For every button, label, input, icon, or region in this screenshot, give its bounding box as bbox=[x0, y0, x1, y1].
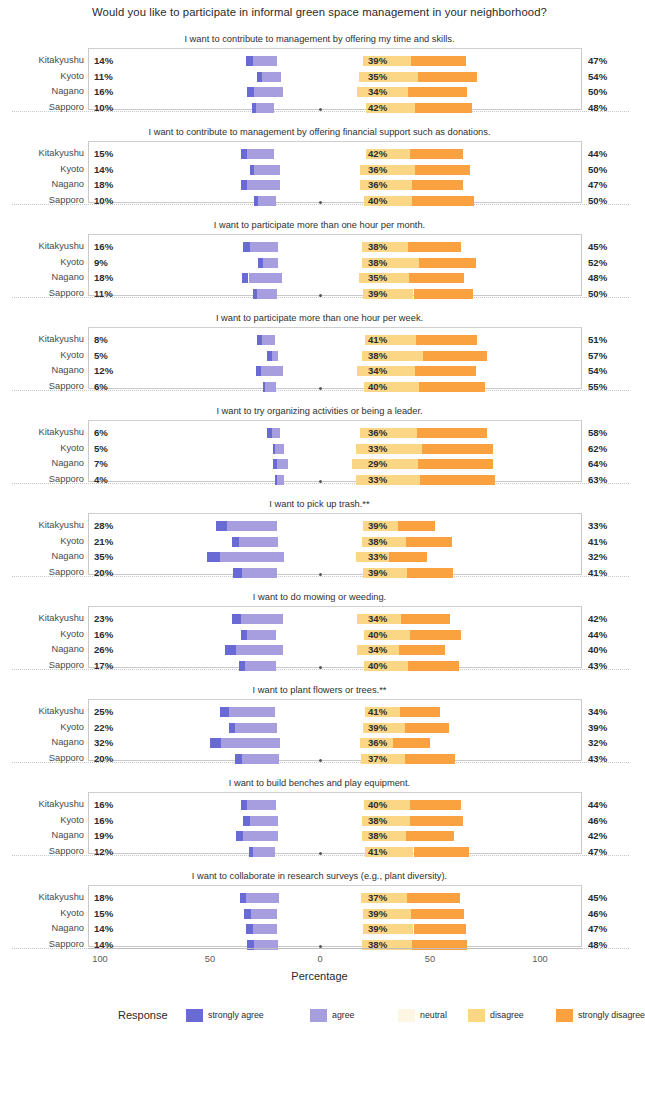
agree-total-label: 17% bbox=[94, 658, 134, 674]
disagree-total-label: 45% bbox=[588, 890, 634, 906]
chart-row: Nagano14%39%47% bbox=[0, 921, 639, 937]
bar-segment-strongly-agree bbox=[207, 552, 220, 562]
neutral-label: 33% bbox=[368, 549, 408, 565]
bar-segment-strongly-agree bbox=[242, 273, 249, 283]
bar-segment-strongly-disagree bbox=[409, 273, 464, 283]
agree-total-label: 32% bbox=[94, 735, 134, 751]
bar-segment-agree bbox=[262, 335, 275, 345]
bar-segment-agree bbox=[262, 72, 282, 82]
disagree-total-label: 64% bbox=[588, 456, 634, 472]
city-label: Nagano bbox=[0, 456, 84, 472]
legend-label: neutral bbox=[420, 1010, 447, 1020]
agree-total-label: 20% bbox=[94, 751, 134, 767]
agree-total-label: 16% bbox=[94, 797, 134, 813]
chart-row: Kitakyushu16%40%44% bbox=[0, 797, 639, 813]
bar-segment-strongly-agree bbox=[243, 816, 250, 826]
bar-segment-agree bbox=[272, 428, 281, 438]
bar-segment-strongly-agree bbox=[243, 242, 250, 252]
chart-row: Nagano16%34%50% bbox=[0, 84, 639, 100]
neutral-label: 36% bbox=[368, 162, 408, 178]
panel-title: I want to collaborate in research survey… bbox=[0, 871, 639, 881]
bar-segment-strongly-agree bbox=[225, 645, 236, 655]
neutral-label: 35% bbox=[368, 270, 408, 286]
agree-total-label: 15% bbox=[94, 906, 134, 922]
disagree-total-label: 39% bbox=[588, 720, 634, 736]
disagree-total-label: 41% bbox=[588, 565, 634, 581]
agree-total-label: 18% bbox=[94, 177, 134, 193]
panel-title: I want to do mowing or weeding. bbox=[0, 592, 639, 602]
city-label: Kyoto bbox=[0, 162, 84, 178]
bar-segment-strongly-disagree bbox=[417, 428, 487, 438]
bar-segment-agree bbox=[236, 645, 282, 655]
chart-row: Nagano32%36%32% bbox=[0, 735, 639, 751]
agree-total-label: 19% bbox=[94, 828, 134, 844]
chart-row: Sapporo17%40%43% bbox=[0, 658, 639, 674]
city-label: Nagano bbox=[0, 921, 84, 937]
city-label: Sapporo bbox=[0, 751, 84, 767]
neutral-label: 34% bbox=[368, 611, 408, 627]
chart-row: Nagano26%34%40% bbox=[0, 642, 639, 658]
agree-total-label: 16% bbox=[94, 239, 134, 255]
panel-title: I want to pick up trash.** bbox=[0, 499, 639, 509]
city-label: Kitakyushu bbox=[0, 146, 84, 162]
axis-tick: 50 bbox=[190, 954, 230, 964]
city-label: Nagano bbox=[0, 549, 84, 565]
bar-segment-strongly-disagree bbox=[410, 800, 461, 810]
agree-total-label: 35% bbox=[94, 549, 134, 565]
neutral-label: 33% bbox=[368, 472, 408, 488]
city-label: Kitakyushu bbox=[0, 332, 84, 348]
agree-total-label: 8% bbox=[94, 332, 134, 348]
bar-segment-agree bbox=[251, 909, 277, 919]
disagree-total-label: 50% bbox=[588, 84, 634, 100]
agree-total-label: 5% bbox=[94, 441, 134, 457]
chart-row: Kyoto21%38%41% bbox=[0, 534, 639, 550]
neutral-label: 38% bbox=[368, 813, 408, 829]
disagree-total-label: 42% bbox=[588, 828, 634, 844]
bar-segment-strongly-agree bbox=[241, 180, 248, 190]
disagree-total-label: 48% bbox=[588, 270, 634, 286]
neutral-label: 38% bbox=[368, 239, 408, 255]
bar-segment-agree bbox=[277, 475, 284, 485]
bar-segment-agree bbox=[239, 537, 279, 547]
city-label: Nagano bbox=[0, 642, 84, 658]
bar-segment-agree bbox=[247, 180, 280, 190]
chart-row: Nagano7%29%64% bbox=[0, 456, 639, 472]
disagree-total-label: 52% bbox=[588, 255, 634, 271]
legend-swatch bbox=[468, 1009, 485, 1022]
disagree-total-label: 63% bbox=[588, 472, 634, 488]
bar-segment-strongly-disagree bbox=[423, 351, 487, 361]
neutral-label: 40% bbox=[368, 797, 408, 813]
bar-segment-strongly-disagree bbox=[422, 444, 492, 454]
bar-segment-agree bbox=[247, 630, 276, 640]
neutral-label: 40% bbox=[368, 627, 408, 643]
bar-segment-strongly-agree bbox=[229, 723, 236, 733]
neutral-label: 36% bbox=[368, 177, 408, 193]
bar-segment-strongly-disagree bbox=[408, 242, 461, 252]
chart-row: Sapporo11%39%50% bbox=[0, 286, 639, 302]
chart-row: Kitakyushu8%41%51% bbox=[0, 332, 639, 348]
bar-segment-strongly-disagree bbox=[411, 56, 466, 66]
disagree-total-label: 46% bbox=[588, 813, 634, 829]
disagree-total-label: 43% bbox=[588, 751, 634, 767]
agree-total-label: 23% bbox=[94, 611, 134, 627]
bar-segment-strongly-disagree bbox=[418, 459, 493, 469]
neutral-label: 40% bbox=[368, 379, 408, 395]
agree-total-label: 6% bbox=[94, 379, 134, 395]
legend-swatch bbox=[186, 1009, 203, 1022]
disagree-total-label: 41% bbox=[588, 534, 634, 550]
bar-segment-strongly-agree bbox=[233, 568, 242, 578]
chart-row: Kyoto22%39%39% bbox=[0, 720, 639, 736]
bar-segment-agree bbox=[253, 924, 277, 934]
disagree-total-label: 40% bbox=[588, 642, 634, 658]
bar-segment-strongly-agree bbox=[232, 537, 239, 547]
chart-row: Sapporo10%42%48% bbox=[0, 100, 639, 116]
bar-segment-strongly-disagree bbox=[415, 165, 470, 175]
neutral-label: 39% bbox=[368, 565, 408, 581]
city-label: Kyoto bbox=[0, 906, 84, 922]
bar-segment-agree bbox=[256, 103, 274, 113]
agree-total-label: 6% bbox=[94, 425, 134, 441]
chart-row: Nagano19%38%42% bbox=[0, 828, 639, 844]
bar-segment-strongly-disagree bbox=[411, 909, 464, 919]
chart-row: Kyoto16%38%46% bbox=[0, 813, 639, 829]
agree-total-label: 10% bbox=[94, 193, 134, 209]
